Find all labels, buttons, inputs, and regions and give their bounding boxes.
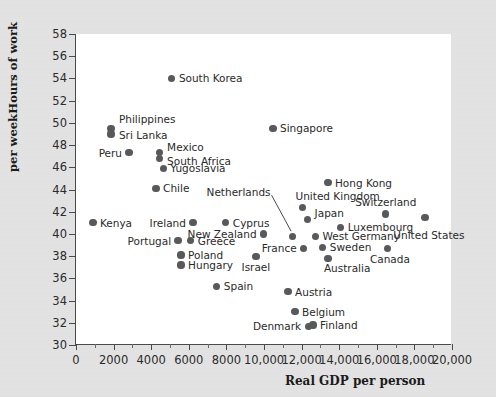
data-point-finland[interactable]: [309, 321, 316, 328]
y-axis-title: Hours of work per week: [7, 22, 27, 172]
data-point-united-states[interactable]: [421, 214, 428, 221]
data-point-netherlands[interactable]: [289, 233, 296, 240]
y-tick-label-40: 40: [52, 227, 67, 241]
x-axis-title: Real GDP per person: [285, 374, 425, 388]
point-label-japan: Japan: [315, 208, 344, 219]
x-tick-label-14000: 14,000: [319, 353, 359, 367]
y-tick-38: [69, 256, 76, 257]
point-label-mexico: Mexico: [167, 142, 204, 153]
point-label-hungary: Hungary: [188, 260, 233, 271]
y-tick-label-54: 54: [52, 71, 67, 85]
y-tick-56: [69, 56, 76, 57]
data-point-ireland[interactable]: [189, 219, 196, 226]
point-label-chile: Chile: [163, 183, 189, 194]
y-tick-label-38: 38: [52, 249, 67, 263]
data-point-cyprus[interactable]: [222, 219, 229, 226]
data-point-sweden[interactable]: [319, 244, 326, 251]
x-tick-4000: [151, 344, 152, 350]
x-tick-label-16000: 16,000: [357, 353, 397, 367]
point-label-austria: Austria: [295, 286, 332, 297]
point-label-ireland: Ireland: [150, 218, 186, 229]
point-label-west-germany: West Germany: [323, 231, 400, 242]
y-tick-44: [69, 190, 76, 191]
data-point-japan[interactable]: [304, 216, 311, 223]
x-tick-label-6000: 6000: [174, 353, 203, 367]
y-tick-label-48: 48: [52, 138, 67, 152]
data-point-hong-kong[interactable]: [324, 179, 331, 186]
x-tick-16000: [377, 344, 378, 350]
x-tick-9000: [245, 344, 246, 348]
data-point-australia[interactable]: [324, 255, 331, 262]
x-tick-20000: [452, 344, 453, 350]
x-tick-19000: [433, 344, 434, 348]
x-tick-15000: [358, 344, 359, 348]
x-tick-13000: [320, 344, 321, 348]
point-label-united-states: United States: [393, 230, 464, 241]
point-label-portugal: Portugal: [128, 235, 172, 246]
data-point-greece[interactable]: [187, 237, 194, 244]
data-point-united-kingdom[interactable]: [299, 204, 306, 211]
point-label-israel: Israel: [242, 262, 271, 273]
point-label-finland: Finland: [320, 320, 358, 331]
data-point-austria[interactable]: [284, 288, 291, 295]
y-tick-46: [69, 167, 76, 168]
data-point-singapore[interactable]: [269, 125, 276, 132]
point-label-canada: Canada: [370, 254, 410, 265]
y-tick-32: [69, 323, 76, 324]
point-label-belgium: Belgium: [302, 306, 345, 317]
data-point-chile[interactable]: [152, 185, 159, 192]
data-point-portugal[interactable]: [174, 237, 181, 244]
point-label-philippines: Philippines: [119, 114, 176, 125]
y-tick-50: [69, 123, 76, 124]
point-label-greece: Greece: [198, 235, 235, 246]
data-point-south-korea[interactable]: [168, 75, 175, 82]
x-tick-1000: [95, 344, 96, 348]
point-label-australia: Australia: [324, 263, 370, 274]
y-tick-40: [69, 234, 76, 235]
x-tick-label-12000: 12,000: [281, 353, 321, 367]
data-point-spain[interactable]: [213, 283, 220, 290]
y-axis-title-line-2: per week: [7, 114, 21, 172]
point-label-netherlands: Netherlands: [207, 187, 271, 198]
y-tick-label-30: 30: [52, 338, 67, 352]
data-point-peru[interactable]: [125, 149, 132, 156]
point-label-france: France: [262, 243, 297, 254]
y-tick-label-56: 56: [52, 49, 67, 63]
point-label-sweden: Sweden: [330, 242, 372, 253]
data-point-sri-lanka[interactable]: [107, 130, 114, 137]
y-tick-30: [69, 345, 76, 346]
y-tick-48: [69, 145, 76, 146]
data-point-belgium[interactable]: [291, 308, 298, 315]
x-tick-label-10000: 10,000: [244, 353, 284, 367]
point-label-south-korea: South Korea: [179, 73, 243, 84]
point-label-denmark: Denmark: [253, 321, 301, 332]
data-point-hungary[interactable]: [177, 261, 184, 268]
y-tick-label-32: 32: [52, 316, 67, 330]
data-point-south-africa[interactable]: [156, 155, 163, 162]
data-point-israel[interactable]: [252, 253, 259, 260]
point-label-switzerland: Switzerland: [355, 197, 416, 208]
data-point-france[interactable]: [300, 245, 307, 252]
y-tick-label-42: 42: [52, 205, 67, 219]
x-tick-18000: [414, 344, 415, 350]
x-tick-14000: [339, 344, 340, 350]
x-tick-label-20000: 20,000: [432, 353, 472, 367]
y-tick-54: [69, 78, 76, 79]
data-point-yugoslavia[interactable]: [160, 165, 167, 172]
x-tick-5000: [170, 344, 171, 348]
x-tick-10000: [264, 344, 265, 350]
x-tick-8000: [226, 344, 227, 350]
x-tick-label-4000: 4000: [137, 353, 166, 367]
y-tick-58: [69, 34, 76, 35]
point-label-kenya: Kenya: [100, 218, 132, 229]
point-label-peru: Peru: [99, 148, 122, 159]
figure-panel: Hours of work per week Real GDP per pers…: [0, 0, 496, 397]
x-tick-12000: [302, 344, 303, 350]
data-point-west-germany[interactable]: [312, 233, 319, 240]
data-point-poland[interactable]: [177, 251, 184, 258]
data-point-switzerland[interactable]: [382, 210, 389, 217]
data-point-kenya[interactable]: [89, 219, 96, 226]
data-point-canada[interactable]: [384, 245, 391, 252]
data-point-new-zealand[interactable]: [260, 230, 267, 237]
y-tick-42: [69, 212, 76, 213]
